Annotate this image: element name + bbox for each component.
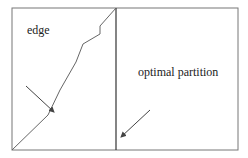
partition-label: optimal partition: [138, 65, 218, 79]
partition-arrow: [121, 110, 150, 137]
edge-label: edge: [27, 23, 50, 37]
diagram-canvas: edge optimal partition: [0, 0, 248, 158]
edge-arrow: [26, 86, 54, 112]
